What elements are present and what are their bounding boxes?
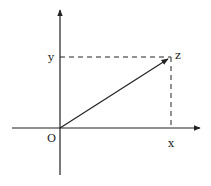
x-label: x <box>168 137 175 150</box>
origin-label: O <box>47 132 56 145</box>
diagram-canvas: y z O x <box>0 0 211 186</box>
y-label: y <box>47 51 55 64</box>
vector-line-origin-to-z <box>60 59 168 128</box>
diagram-svg: y z O x <box>0 0 211 186</box>
z-point-label: z <box>175 49 181 62</box>
